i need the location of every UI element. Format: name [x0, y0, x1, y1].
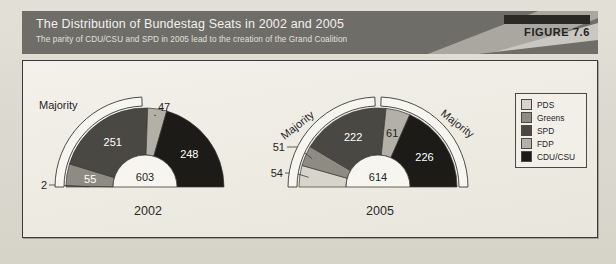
legend-swatch-pds: [521, 99, 532, 110]
plot-frame: 60355251248 247Majority 2002 61422261226…: [22, 60, 598, 238]
legend-swatch-fdp: [521, 138, 532, 149]
legend-item-pds[interactable]: PDS: [521, 98, 581, 111]
legend-swatch-greens: [521, 112, 532, 123]
legend-item-greens[interactable]: Greens: [521, 111, 581, 124]
slice-value-cdu-csu: 248: [180, 148, 198, 160]
figure-badge-label: FIGURE 7.6: [504, 26, 590, 38]
callout-value-greens: 51: [273, 141, 285, 153]
callout-value-fdp: 47: [158, 101, 170, 113]
figure-title: The Distribution of Bundestag Seats in 2…: [36, 17, 344, 31]
legend: PDS Greens SPD FDP CDU/CSU: [515, 93, 587, 168]
legend-item-spd[interactable]: SPD: [521, 124, 581, 137]
slice-value-fdp: 61: [386, 127, 398, 139]
figure-root: The Distribution of Bundestag Seats in 2…: [0, 0, 616, 264]
figure-header: The Distribution of Bundestag Seats in 2…: [22, 11, 598, 54]
legend-label-greens: Greens: [537, 113, 564, 123]
half-donut-2005: 61422261226 5451MajorityMajority: [245, 61, 515, 211]
legend-label-cducsu: CDU/CSU: [537, 152, 575, 162]
legend-swatch-cducsu: [521, 151, 532, 162]
year-label-2005: 2005: [245, 204, 515, 218]
figure-subtitle: The parity of CDU/CSU and SPD in 2005 le…: [36, 35, 347, 44]
legend-label-pds: PDS: [537, 100, 554, 110]
legend-item-cducsu[interactable]: CDU/CSU: [521, 150, 581, 163]
center-total-label: 614: [369, 171, 387, 183]
legend-swatch-spd: [521, 125, 532, 136]
legend-label-fdp: FDP: [537, 139, 554, 149]
callout-value-pds: 54: [271, 167, 283, 179]
slice-value-cdu-csu: 226: [415, 151, 433, 163]
majority-label: Majority: [39, 99, 78, 111]
chart-panel-2005: 61422261226 5451MajorityMajority 2005: [245, 61, 515, 237]
year-label-2002: 2002: [23, 204, 273, 218]
figure-badge-bar: [504, 15, 590, 24]
slice-value-spd: 251: [104, 136, 122, 148]
callout-value-pds: 2: [41, 179, 47, 191]
half-donut-2002: 60355251248 247Majority: [23, 61, 273, 211]
slice-value-greens: 55: [84, 173, 96, 185]
legend-item-fdp[interactable]: FDP: [521, 137, 581, 150]
center-total-label: 603: [136, 171, 154, 183]
slice-value-spd: 222: [344, 131, 362, 143]
legend-label-spd: SPD: [537, 126, 554, 136]
chart-panel-2002: 60355251248 247Majority 2002: [23, 61, 273, 237]
